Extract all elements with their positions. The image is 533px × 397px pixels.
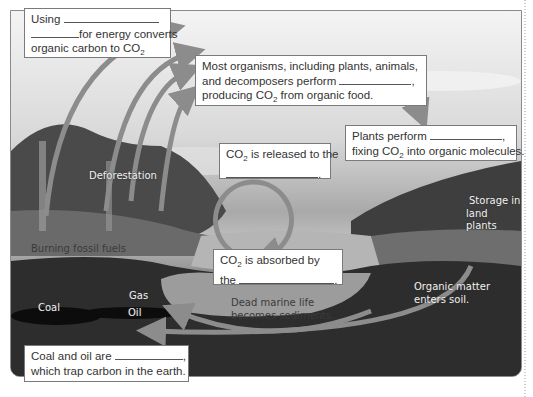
label-dead-marine-line2: becomes sediments. xyxy=(231,310,334,322)
fill-in-blank[interactable] xyxy=(31,27,79,38)
label-gas: Gas xyxy=(129,290,148,302)
label-oil: Oil xyxy=(128,307,141,319)
label-dead-marine-line1: Dead marine life xyxy=(231,297,314,309)
fill-in-blank[interactable] xyxy=(226,167,318,178)
label-organic-line2: enters soil. xyxy=(414,294,469,306)
fill-in-blank[interactable] xyxy=(339,74,411,85)
fill-in-blank[interactable] xyxy=(239,273,334,284)
label-coal: Coal xyxy=(38,302,60,314)
callout-co2-absorbed: CO2 is absorbed by the . xyxy=(213,249,343,285)
callout-combustion: Using for energy converts organic carbon… xyxy=(24,8,171,58)
callout-photosynthesis: Plants perform , fixing CO2 into organic… xyxy=(345,125,517,161)
label-burning-fossil-fuels: Burning fossil fuels xyxy=(31,243,126,255)
callout-respiration: Most organisms, including plants, animal… xyxy=(195,55,427,106)
label-organic-line1: Organic matter xyxy=(414,281,490,293)
label-storage-line1: Storage in xyxy=(469,195,520,207)
callout-fossil-fuels: Coal and oil are , which trap carbon in … xyxy=(24,345,189,382)
fill-in-blank[interactable] xyxy=(115,349,183,360)
callout-co2-released: CO2 is released to the . xyxy=(219,143,331,179)
label-deforestation: Deforestation xyxy=(89,170,157,182)
page-edge-divider xyxy=(524,0,526,397)
fill-in-blank[interactable] xyxy=(430,129,502,140)
label-storage-line2: land plants xyxy=(466,208,521,232)
fill-in-blank[interactable] xyxy=(64,12,159,23)
